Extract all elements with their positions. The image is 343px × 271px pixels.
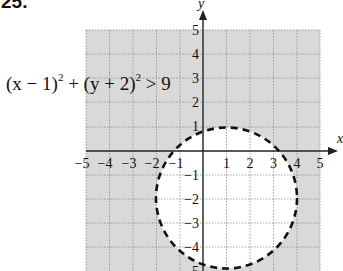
inequality-label: (x − 1)2 + (y + 2)2 > 9 [6, 73, 171, 95]
svg-text:1: 1 [192, 119, 199, 134]
svg-text:−5: −5 [184, 264, 199, 271]
svg-text:4: 4 [192, 47, 199, 62]
inequality-graph: x y −5 −4 −3 −2 −1 1 2 3 4 5 5 4 3 2 1 −… [0, 0, 343, 271]
svg-text:−1: −1 [169, 156, 184, 171]
svg-text:2: 2 [192, 95, 199, 110]
svg-text:−5: −5 [75, 156, 90, 171]
exponent: 2 [58, 71, 64, 83]
svg-text:−2: −2 [145, 156, 160, 171]
x-axis-label: x [336, 131, 343, 146]
svg-text:1: 1 [223, 156, 230, 171]
svg-text:3: 3 [192, 71, 199, 86]
svg-text:4: 4 [294, 156, 301, 171]
svg-text:−4: −4 [98, 156, 113, 171]
svg-text:−3: −3 [122, 156, 137, 171]
y-axis-arrow-icon [199, 10, 207, 20]
svg-text:−3: −3 [184, 216, 199, 231]
inequality-term-x: (x − 1) [6, 73, 58, 94]
svg-text:2: 2 [247, 156, 254, 171]
inequality-rhs: > 9 [141, 73, 171, 94]
svg-text:3: 3 [270, 156, 277, 171]
x-axis-arrow-icon [328, 147, 338, 155]
svg-text:−4: −4 [184, 240, 199, 255]
svg-text:−1: −1 [184, 168, 199, 183]
inequality-term-y: + (y + 2) [63, 73, 135, 94]
svg-text:−2: −2 [184, 192, 199, 207]
svg-text:5: 5 [192, 23, 199, 38]
svg-text:5: 5 [317, 156, 324, 171]
y-axis-label: y [196, 0, 205, 11]
exponent: 2 [135, 71, 141, 83]
